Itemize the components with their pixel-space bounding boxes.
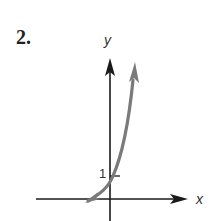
y-axis-label: y bbox=[103, 32, 112, 48]
x-axis-label: x bbox=[195, 191, 204, 207]
graph: y x 1 bbox=[0, 0, 213, 221]
tick-label-1: 1 bbox=[99, 166, 106, 181]
